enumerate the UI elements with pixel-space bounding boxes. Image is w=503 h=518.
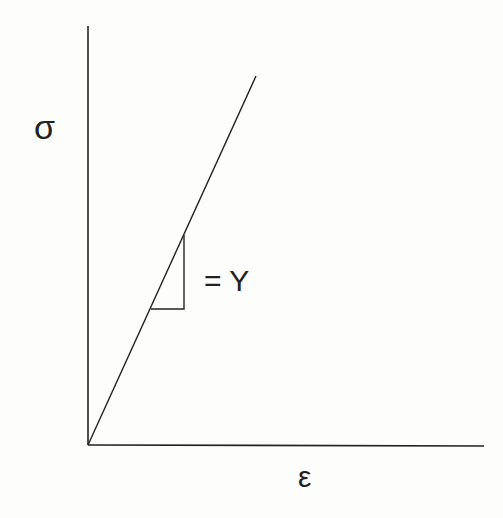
stress-strain-diagram <box>0 0 503 518</box>
stress-strain-line <box>88 76 256 445</box>
slope-label: = Y <box>204 264 249 298</box>
x-axis-label: ε <box>298 460 311 494</box>
y-axis-label: σ <box>34 108 55 147</box>
x-axis <box>88 445 484 446</box>
